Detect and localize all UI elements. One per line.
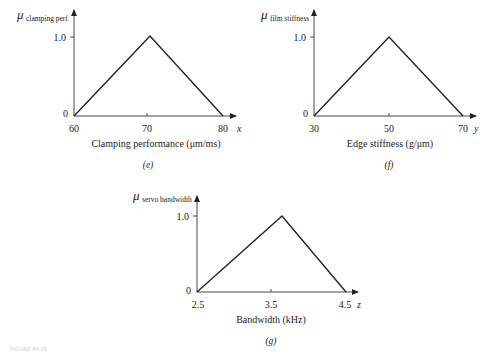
chart-panel-g: μ servo bandwidth 1.0 0 2.5 3.5 4.5 z Ba… — [132, 188, 361, 347]
membership-curve — [197, 216, 346, 292]
x-axis-label: Clamping performance (μm/ms) — [91, 138, 220, 150]
panel-tag: (e) — [143, 160, 154, 171]
x-tick-label-2: 70 — [458, 123, 468, 134]
axis-variable: x — [236, 123, 242, 134]
figure-caption: FIGURE P4.19 — [10, 346, 47, 352]
x-tick-label-1: 50 — [384, 123, 394, 134]
chart-panel-f: μ film stiffness 1.0 0 30 50 70 y Edge s… — [260, 7, 479, 171]
x-tick-label-2: 4.5 — [339, 299, 352, 310]
mu-subscript: clamping perf. — [26, 14, 70, 23]
mu-symbol: μ — [132, 188, 140, 203]
y-tick-label-1: 1.0 — [54, 32, 67, 43]
x-tick-label-0: 60 — [69, 123, 79, 134]
y-tick-label-1: 1.0 — [177, 211, 190, 222]
x-tick-label-1: 3.5 — [265, 299, 278, 310]
mu-symbol: μ — [260, 7, 268, 22]
mu-subscript: film stiffness — [270, 14, 309, 23]
x-tick-label-2: 80 — [218, 123, 228, 134]
chart-panel-e: μ clamping perf. 1.0 0 60 70 80 x Clampi… — [16, 7, 242, 171]
panel-tag: (f) — [385, 160, 394, 171]
x-axis-label: Bandwidth (kHz) — [236, 314, 306, 326]
membership-curve — [74, 36, 223, 116]
panel-tag: (g) — [265, 336, 276, 347]
membership-curve — [314, 37, 463, 116]
x-tick-label-1: 70 — [142, 123, 152, 134]
x-tick-label-0: 30 — [309, 123, 319, 134]
y-tick-label-1: 1.0 — [294, 32, 307, 43]
y-tick-label-0: 0 — [303, 108, 308, 119]
y-tick-label-0: 0 — [63, 108, 68, 119]
axis-variable: z — [356, 299, 361, 310]
x-axis-label: Edge stiffness (g/μm) — [347, 138, 433, 150]
y-tick-label-0: 0 — [186, 285, 191, 296]
axis-variable: y — [473, 123, 479, 134]
mu-symbol: μ — [16, 7, 24, 22]
membership-function-figure: μ clamping perf. 1.0 0 60 70 80 x Clampi… — [0, 0, 491, 357]
x-tick-label-0: 2.5 — [192, 299, 205, 310]
mu-subscript: servo bandwidth — [142, 195, 192, 204]
